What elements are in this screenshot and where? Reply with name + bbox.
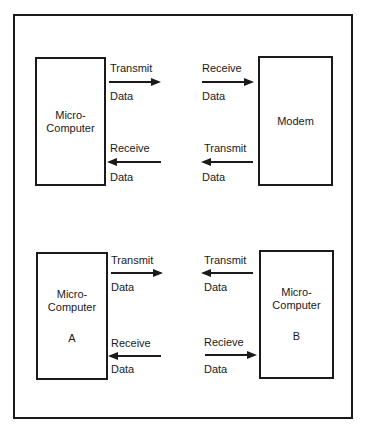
modem-box: Modem [258,56,333,186]
left-arrow-icon [203,161,253,163]
arrow-label-bottom: Data [110,90,133,102]
right-arrow-icon [202,81,252,83]
left-arrow-icon [110,355,161,357]
arrow-label-top: Transmit [111,254,153,266]
box-label: Modem [277,115,314,128]
arrow-label-top: Receive [110,142,150,154]
box-label-line1: Micro- [55,109,86,122]
arrow-label-top: Receive [111,337,151,349]
arrow-label-top: Transmit [110,62,152,74]
arrow-label-bottom: Data [111,281,134,293]
box-label-line2: Computer [46,122,94,135]
arrow-label-top: Transmit [204,142,246,154]
box-label-line1: Micro- [281,286,312,299]
right-arrow-icon [111,272,161,274]
arrow-label-bottom: Data [110,171,133,183]
arrow-label-top: Transmit [204,254,246,266]
left-arrow-icon [109,161,161,163]
arrow-label-bottom: Data [202,171,225,183]
box-id-label: A [68,332,75,345]
box-label-line2: Computer [272,299,320,312]
arrow-label-bottom: Data [111,363,134,375]
right-arrow-icon [109,81,159,83]
arrow-label-bottom: Data [204,281,227,293]
left-arrow-icon [203,272,253,274]
box-id-label: B [293,330,300,343]
right-arrow-icon [205,354,255,356]
arrow-label-top: Receive [202,62,242,74]
arrow-label-bottom: Data [204,363,227,375]
box-label-line1: Micro- [57,288,88,301]
arrow-label-bottom: Data [202,90,225,102]
microcomputer-b-box: Micro- Computer B [259,250,334,379]
arrow-label-top: Recieve [204,336,244,348]
microcomputer-a-box: Micro- Computer A [36,252,108,380]
microcomputer-box: Micro- Computer [35,57,106,186]
box-label-line2: Computer [48,301,96,314]
